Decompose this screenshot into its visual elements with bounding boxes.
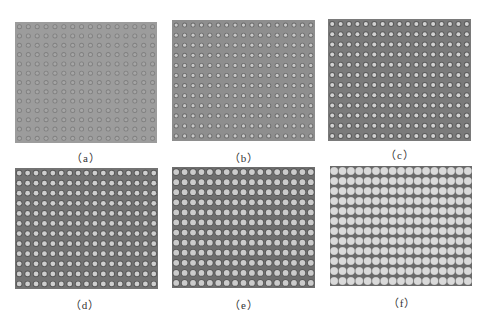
panel-c-image xyxy=(328,19,471,141)
caption-d: （d） xyxy=(55,296,115,312)
caption-e: （e） xyxy=(214,296,274,312)
caption-f: （f） xyxy=(372,294,432,310)
panel-e-image xyxy=(172,167,315,288)
panel-d-image xyxy=(15,168,158,289)
panel-f-image xyxy=(330,166,472,286)
panel-a-image xyxy=(15,22,157,143)
caption-c: （c） xyxy=(370,146,430,162)
caption-a: （a） xyxy=(56,149,116,165)
caption-b: （b） xyxy=(214,149,274,165)
panel-b-image xyxy=(172,20,315,141)
